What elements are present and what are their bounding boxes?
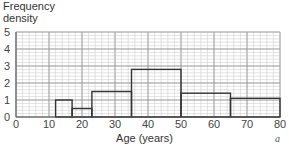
x-axis-ticks: 01020304050607080 — [13, 118, 286, 130]
x-tick-label: 50 — [175, 118, 187, 130]
x-tick-label: 30 — [109, 118, 121, 130]
y-tick-label: 4 — [4, 43, 10, 55]
x-axis-title: Age (years) — [0, 132, 289, 144]
histogram-bar — [56, 100, 73, 117]
y-tick-label: 3 — [4, 60, 10, 72]
x-tick-label: 20 — [76, 118, 88, 130]
histogram-chart: 012345 01020304050607080 — [0, 0, 289, 149]
y-tick-label: 2 — [4, 77, 10, 89]
x-tick-label: 70 — [241, 118, 253, 130]
figure-label: a — [275, 133, 280, 144]
y-tick-label: 5 — [4, 26, 10, 38]
x-tick-label: 80 — [274, 118, 286, 130]
y-tick-label: 1 — [4, 94, 10, 106]
x-tick-label: 60 — [208, 118, 220, 130]
x-tick-label: 0 — [13, 118, 19, 130]
x-tick-label: 10 — [43, 118, 55, 130]
x-tick-label: 40 — [142, 118, 154, 130]
y-axis-ticks: 012345 — [4, 26, 10, 123]
histogram-bar — [92, 92, 132, 118]
histogram-bar — [231, 98, 281, 117]
y-tick-label: 0 — [4, 111, 10, 123]
